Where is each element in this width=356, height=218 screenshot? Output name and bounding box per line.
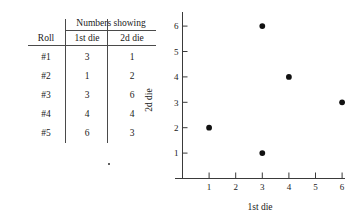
y-tick-label: 5 <box>174 47 179 57</box>
data-point <box>339 99 345 105</box>
scatter-plot-svg: 123456 123456 1st die 2d die <box>0 0 356 218</box>
x-axis-title: 1st die <box>247 202 272 212</box>
data-point <box>286 74 292 80</box>
x-axis-ticks: 123456 <box>207 173 345 192</box>
data-point <box>206 125 212 131</box>
y-tick-label: 2 <box>174 123 179 133</box>
y-tick-label: 3 <box>174 98 179 108</box>
y-axis-ticks: 123456 <box>174 21 188 158</box>
y-tick-label: 4 <box>174 72 179 82</box>
x-tick-label: 5 <box>313 182 318 192</box>
x-tick-label: 1 <box>207 182 212 192</box>
scatter-plot: 123456 123456 1st die 2d die <box>0 0 356 218</box>
y-axis-title: 2d die <box>144 88 154 111</box>
x-tick-label: 4 <box>287 182 292 192</box>
x-tick-label: 6 <box>340 182 345 192</box>
data-points <box>206 23 345 156</box>
x-tick-label: 2 <box>233 182 238 192</box>
y-tick-label: 1 <box>174 148 179 158</box>
data-point <box>259 23 265 29</box>
y-tick-label: 6 <box>174 21 179 31</box>
data-point <box>259 150 265 156</box>
x-tick-label: 3 <box>260 182 265 192</box>
